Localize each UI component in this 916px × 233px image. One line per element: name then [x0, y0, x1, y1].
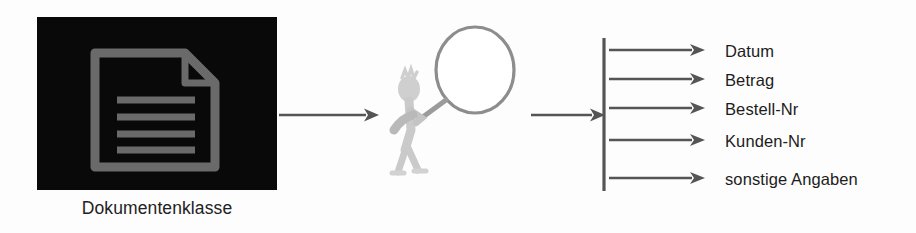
- diagram-canvas: Dokumentenklasse: [0, 0, 916, 233]
- extraction-bar-and-arrows: [596, 30, 716, 205]
- arrow-doc-to-analyst-icon: [278, 104, 382, 126]
- document-thumbnail: [37, 17, 277, 190]
- field-label-betrag: Betrag: [725, 72, 774, 89]
- document-class-caption: Dokumentenklasse: [37, 198, 277, 219]
- document-class-block: [37, 17, 277, 190]
- analyst-with-magnifier-icon: [382, 22, 517, 182]
- field-label-sonstige-angaben: sonstige Angaben: [725, 171, 858, 188]
- field-label-kunden-nr: Kunden-Nr: [725, 133, 806, 150]
- field-label-datum: Datum: [725, 43, 774, 60]
- document-lines-icon: [87, 45, 223, 175]
- field-label-bestell-nr: Bestell-Nr: [725, 101, 798, 118]
- extracted-fields-group: Datum Betrag Bestell-Nr Kunden-Nr sonsti…: [596, 30, 916, 205]
